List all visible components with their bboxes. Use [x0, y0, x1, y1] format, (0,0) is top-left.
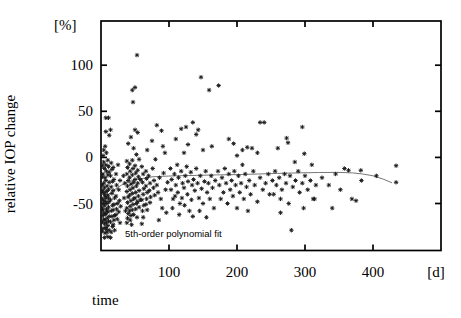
y-tick-label: -50 [73, 196, 93, 212]
y-tick-label: 0 [86, 149, 94, 165]
x-tick-label: 300 [294, 264, 317, 280]
axis-tick-labels: 100200300400-50050100 [71, 57, 385, 280]
y-tick-label: 50 [78, 103, 93, 119]
x-tick-label: 200 [226, 264, 249, 280]
x-axis-title: time [92, 292, 119, 308]
scatter-marker-path [100, 53, 398, 240]
scatter-plot-canvas: [%] relative IOP change time [d] 5th-ord… [0, 0, 461, 318]
plot-border [101, 21, 441, 251]
y-axis-unit-label: [%] [54, 17, 77, 33]
axis-ticks [101, 21, 441, 251]
x-axis-unit-label: [d] [427, 264, 445, 280]
plot-frame [101, 21, 441, 251]
x-tick-label: 100 [158, 264, 181, 280]
iop-scatter-chart: [%] relative IOP change time [d] 5th-ord… [0, 0, 461, 318]
fit-annotation-label: 5th-order polynomial fit [125, 228, 222, 239]
y-axis-title: relative IOP change [2, 94, 18, 213]
y-tick-label: 100 [71, 57, 94, 73]
scatter-points [100, 53, 398, 240]
x-tick-label: 400 [362, 264, 385, 280]
